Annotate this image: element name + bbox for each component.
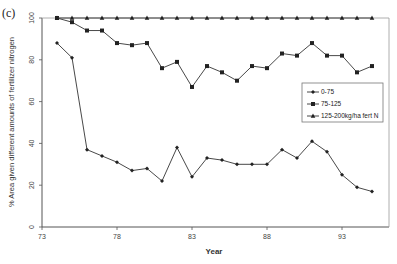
legend-label: 0-75 [321,88,334,95]
x-tick-label: 88 [263,233,271,240]
x-tick-label: 78 [113,233,121,240]
x-axis: 7378838893 [38,227,346,240]
legend: 0-7575-125125-200kg/ha fert N [302,83,383,122]
y-tick-label: 80 [28,56,35,64]
legend-label: 125-200kg/ha fert N [321,112,379,120]
plot-frame [42,18,389,227]
x-tick-label: 73 [38,233,46,240]
x-axis-title: Year [206,247,223,256]
line-chart: 020406080100 7378838893 % Area given dif… [0,0,397,264]
y-tick-label: 20 [28,181,35,189]
x-tick-label: 83 [188,233,196,240]
y-axis-title: % Area given different amounts of fertil… [7,37,16,207]
y-tick-label: 0 [28,225,35,229]
series-75-125 [55,16,374,89]
legend-label: 75-125 [321,100,342,107]
y-tick-label: 100 [28,12,35,24]
y-axis: 020406080100 [28,12,42,229]
y-tick-label: 40 [28,139,35,147]
x-tick-label: 93 [338,233,346,240]
y-tick-label: 60 [28,98,35,106]
series-125-200kg-ha-fert-n [55,16,375,20]
